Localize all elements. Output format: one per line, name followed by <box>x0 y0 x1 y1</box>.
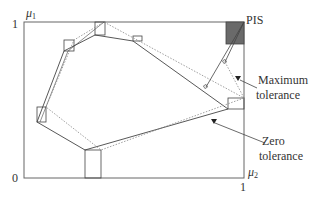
max-tolerance-label: tolerance <box>256 88 300 102</box>
zero-tolerance-polygon-upper <box>40 22 104 122</box>
tolerance-diagram: 1 μ1 0 μ2 1 PIS Maximum tolerance Zero t… <box>0 0 321 200</box>
zero-tolerance-arrow <box>215 123 265 143</box>
tolerance-box <box>228 98 244 109</box>
max-tolerance-label: Maximum <box>258 73 309 87</box>
zero-tolerance-polygon <box>37 35 228 150</box>
x-axis-label: μ2 <box>247 165 258 180</box>
plot-frame <box>24 22 244 178</box>
tolerance-box <box>85 150 101 178</box>
x-tick-right: 1 <box>240 180 246 194</box>
max-tolerance-polygon <box>46 22 244 150</box>
pis-label: PIS <box>246 13 263 27</box>
zero-tolerance-label: Zero <box>262 134 285 148</box>
y-axis-label: μ1 <box>25 6 36 21</box>
max-tolerance-arrow <box>240 80 257 88</box>
zero-tolerance-label: tolerance <box>259 149 303 163</box>
origin-label: 0 <box>12 171 18 185</box>
y-tick-top: 1 <box>12 17 18 31</box>
tolerance-box <box>64 40 74 51</box>
